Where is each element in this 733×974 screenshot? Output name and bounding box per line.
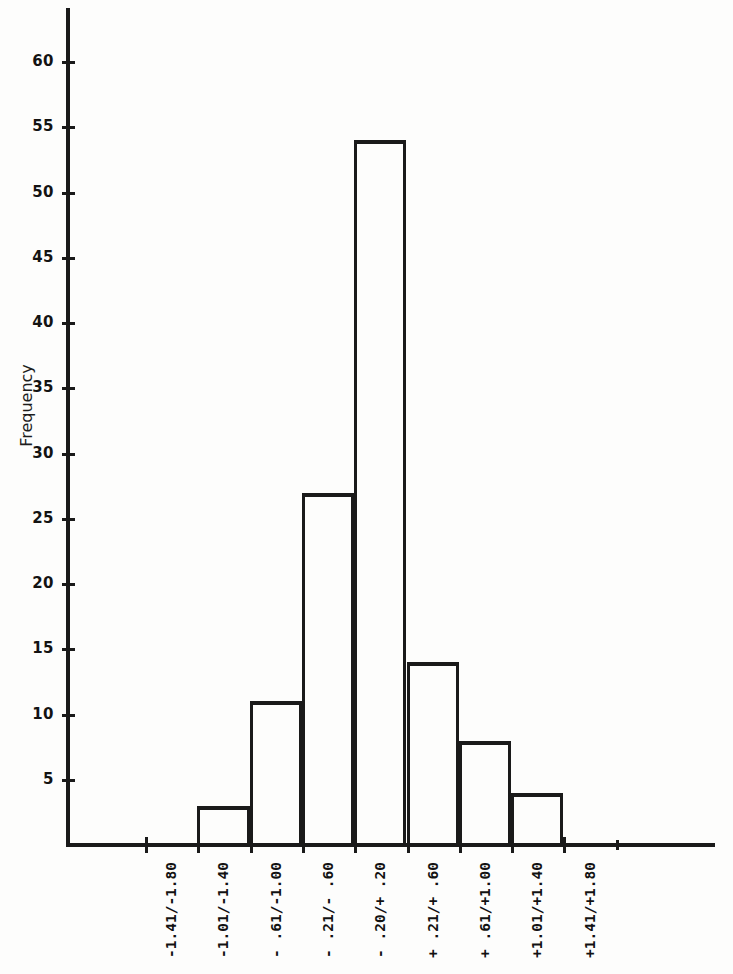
y-tick-mark [62,518,75,521]
x-tick-label: - .21/- .60 [319,862,337,974]
y-tick-mark [62,387,75,390]
x-tick-label: - .20/+ .20 [371,862,389,974]
y-tick-mark [62,714,75,717]
x-tick-mark [616,840,619,850]
histogram-bar [459,741,511,847]
histogram-bar [511,793,563,847]
y-tick-label: 45 [14,248,54,266]
y-tick-mark [62,453,75,456]
y-tick-mark [62,61,75,64]
histogram-bar [407,662,459,847]
histogram-bar [197,806,249,847]
x-tick-label: + .61/+1.00 [476,862,494,974]
y-tick-label: 35 [14,378,54,396]
y-tick-label: 20 [14,574,54,592]
y-tick-label: 25 [14,509,54,527]
x-tick-label: -1.41/-1.80 [162,862,180,974]
y-tick-mark [62,257,75,260]
x-tick-label: +1.41/+1.80 [581,862,599,974]
y-tick-label: 10 [14,705,54,723]
y-tick-mark [62,192,75,195]
y-tick-label: 55 [14,117,54,135]
y-tick-label: 60 [14,52,54,70]
y-tick-label: 5 [14,770,54,788]
y-tick-mark [62,583,75,586]
y-axis-line [66,8,70,847]
y-tick-mark [62,779,75,782]
y-tick-label: 30 [14,444,54,462]
y-tick-label: 15 [14,639,54,657]
y-tick-mark [62,322,75,325]
histogram-bar [302,493,354,847]
x-tick-label: - .61/-1.00 [267,862,285,974]
y-tick-label: 50 [14,183,54,201]
x-tick-label: + .21/+ .60 [424,862,442,974]
histogram-figure: Frequency 51015202530354045505560 -1.41/… [0,0,733,974]
histogram-bar [250,701,302,847]
y-tick-mark [62,648,75,651]
x-tick-mark [563,837,566,853]
x-tick-mark [145,837,148,853]
y-tick-label: 40 [14,313,54,331]
histogram-bar [354,140,406,847]
y-tick-mark [62,126,75,129]
x-tick-label: +1.01/+1.40 [528,862,546,974]
x-tick-label: -1.01/-1.40 [214,862,232,974]
